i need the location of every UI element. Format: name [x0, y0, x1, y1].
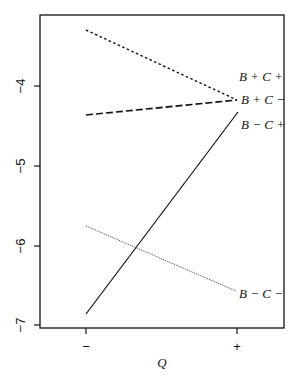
series-labels: B + C + B + C − B − C + B − C −	[239, 69, 285, 301]
x-axis-title: Q	[157, 355, 167, 370]
series-lines	[86, 30, 238, 314]
x-axis: − + Q	[82, 328, 241, 370]
label-b-plus-c-minus: B + C −	[241, 92, 285, 107]
y-axis: −4 −5 −6 −7	[13, 79, 40, 333]
y-tick-label: −5	[13, 159, 28, 174]
label-b-minus-c-plus: B − C +	[241, 117, 285, 132]
plot-frame	[40, 15, 284, 328]
y-tick-label: −7	[13, 318, 28, 333]
x-tick-label: +	[233, 339, 241, 354]
interaction-plot: −4 −5 −6 −7 − + Q B + C + B + C − B − C …	[0, 0, 297, 376]
line-b-plus-c-minus	[86, 100, 237, 115]
y-tick-label: −4	[13, 79, 28, 94]
line-b-minus-c-plus	[86, 112, 238, 314]
line-b-plus-c-plus	[86, 30, 237, 100]
line-b-minus-c-minus	[86, 226, 236, 291]
y-tick-label: −6	[13, 239, 28, 254]
x-tick-label: −	[82, 339, 90, 354]
label-b-plus-c-plus: B + C +	[239, 69, 283, 84]
label-b-minus-c-minus: B − C −	[239, 286, 283, 301]
